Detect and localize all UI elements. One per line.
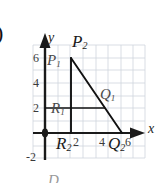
point-label-r2: R2 [56,135,71,153]
point-label-q1-base: Q [100,86,111,102]
x-tick-2: 2 [73,136,79,148]
x-axis-label: x [148,122,154,136]
point-label-p2-base: P [72,32,82,51]
point-label-r2-base: R [56,134,66,153]
y-tick-4: 4 [33,77,39,89]
point-label-p2: P2 [72,33,87,51]
point-label-r2-sub: 2 [66,142,71,153]
figure-container: ) [0,0,162,183]
point-label-q1: Q1 [100,87,115,103]
point-label-q2-sub: 2 [120,142,125,153]
x-tick-4: 4 [99,136,105,148]
point-label-p1-sub: 1 [56,59,61,69]
x-tick-6: 6 [125,136,131,148]
y-axis-label: y [48,31,54,45]
point-label-r1-base: R [51,100,60,116]
point-label-p1: P1 [47,53,61,69]
origin-marker [42,129,48,138]
point-label-q1-sub: 1 [111,93,116,103]
bottom-cut-text: D [48,172,59,183]
y-tick-2: 2 [33,102,39,114]
point-label-q2: Q2 [108,135,125,153]
y-tick-6: 6 [33,52,39,64]
y-tick-neg2: -2 [26,151,36,163]
point-label-p1-base: P [47,52,56,68]
point-label-q2-base: Q [108,134,120,153]
point-label-r1: R1 [51,101,65,117]
point-label-r1-sub: 1 [60,107,65,117]
point-label-p2-sub: 2 [82,40,87,51]
coordinate-plot [0,0,162,183]
